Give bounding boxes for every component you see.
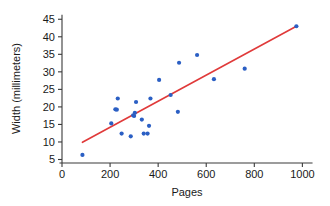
x-tick-label: 0 [59, 168, 65, 180]
data-point [176, 110, 180, 114]
data-point [294, 24, 298, 28]
data-point [147, 124, 151, 128]
data-point [212, 77, 216, 81]
data-point [80, 153, 84, 157]
data-point [115, 108, 119, 112]
x-axis-title: Pages [171, 186, 203, 198]
y-axis-title: Width (millimeters) [10, 43, 22, 134]
data-point [177, 61, 181, 65]
x-tick-label: 800 [245, 168, 263, 180]
y-tick-label: 40 [43, 31, 55, 43]
y-tick-label: 5 [49, 153, 55, 165]
y-tick-label: 30 [43, 66, 55, 78]
axis-tick-marks [58, 19, 302, 167]
x-tick-label: 1000 [290, 168, 314, 180]
x-tick-label: 200 [101, 168, 119, 180]
y-tick-label: 25 [43, 83, 55, 95]
data-point [134, 100, 138, 104]
chart-canvas: 51015202530354045 02004006008001000 Page… [0, 0, 330, 206]
data-point [157, 78, 161, 82]
x-tick-label: 400 [149, 168, 167, 180]
y-tick-label: 45 [43, 13, 55, 25]
data-point [195, 53, 199, 57]
y-tick-label: 10 [43, 136, 55, 148]
data-point [243, 67, 247, 71]
data-point [142, 131, 146, 135]
data-point [140, 117, 144, 121]
data-point [116, 96, 120, 100]
scatter-plot-figure: 51015202530354045 02004006008001000 Page… [0, 0, 330, 206]
y-tick-label: 35 [43, 48, 55, 60]
x-tick-label: 600 [197, 168, 215, 180]
data-point [120, 131, 124, 135]
data-point [148, 96, 152, 100]
data-point [109, 121, 113, 125]
data-point [145, 131, 149, 135]
y-tick-label: 20 [43, 101, 55, 113]
y-tick-label: 15 [43, 118, 55, 130]
regression-trend-line [82, 26, 296, 142]
x-axis-tick-labels: 02004006008001000 [59, 168, 315, 180]
data-point-group [80, 24, 298, 157]
data-point [169, 93, 173, 97]
y-axis-tick-labels: 51015202530354045 [43, 13, 55, 165]
data-point [129, 134, 133, 138]
data-point [133, 111, 137, 115]
